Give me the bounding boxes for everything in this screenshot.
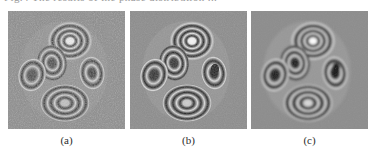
caption-c: (c) — [251, 134, 368, 146]
figure-panel-a — [8, 11, 125, 129]
clipped-header-text-label: Fig.4 The results of the phase distribut… — [4, 0, 217, 3]
figure-panel-b — [130, 11, 247, 129]
figure-panel-row — [0, 11, 375, 129]
phase-map-image-a — [8, 11, 125, 129]
caption-b: (b) — [130, 134, 247, 146]
figure-panel-c — [251, 11, 368, 129]
phase-map-image-b — [130, 11, 247, 129]
clipped-header-text: Fig.4 The results of the phase distribut… — [0, 0, 375, 7]
phase-map-image-c — [251, 11, 368, 129]
caption-a: (a) — [8, 134, 125, 146]
figure-caption-row: (a) (b) (c) — [0, 131, 375, 156]
